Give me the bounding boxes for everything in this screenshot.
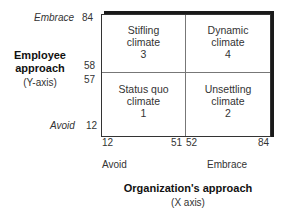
x-tick-51: 51 (171, 137, 182, 148)
quadrant-label: climate (186, 95, 270, 107)
x-tick-84: 84 (258, 137, 269, 148)
quadrant-status-quo: Status quo climate 1 (102, 83, 185, 119)
x-tick-12: 12 (102, 137, 113, 148)
quadrant-label: climate (102, 36, 185, 48)
y-tick-57: 57 (84, 74, 95, 85)
quadrant-box: Stifling climate 3 Dynamic climate 4 Sta… (101, 14, 271, 137)
quadrant-label: climate (186, 36, 270, 48)
y-tick-58: 58 (84, 60, 95, 71)
quadrant-label: Unsettling (186, 83, 270, 95)
y-axis-subtitle: (Y-axis) (6, 77, 74, 88)
x-axis-right-label: Embrace (207, 159, 247, 170)
quadrant-number: 2 (186, 107, 270, 119)
y-tick-84: 84 (82, 12, 93, 23)
y-tick-12: 12 (86, 120, 97, 131)
x-axis-subtitle: (X axis) (100, 197, 276, 208)
quadrant-label: Stifling (102, 24, 185, 36)
quadrant-stifling: Stifling climate 3 (102, 24, 185, 60)
horizontal-divider (102, 72, 270, 73)
x-axis-left-label: Avoid (102, 159, 127, 170)
x-tick-52: 52 (186, 137, 197, 148)
quadrant-dynamic: Dynamic climate 4 (186, 24, 270, 60)
quadrant-label: Dynamic (186, 24, 270, 36)
quadrant-unsettling: Unsettling climate 2 (186, 83, 270, 119)
quadrant-number: 3 (102, 48, 185, 60)
quadrant-number: 4 (186, 48, 270, 60)
y-axis-top-label: Embrace (34, 12, 74, 23)
y-axis-title-line2: approach (6, 62, 74, 75)
quadrant-label: climate (102, 95, 185, 107)
x-axis-title: Organization's approach (100, 182, 276, 194)
quadrant-number: 1 (102, 107, 185, 119)
quadrant-label: Status quo (102, 83, 185, 95)
y-axis-title: Employee approach (6, 49, 74, 75)
y-axis-bottom-label: Avoid (50, 120, 75, 131)
y-axis-title-line1: Employee (6, 49, 74, 62)
